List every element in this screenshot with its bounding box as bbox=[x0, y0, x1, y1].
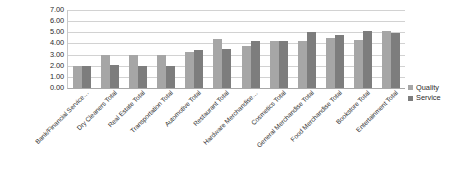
plot-area bbox=[67, 10, 405, 89]
bar-service[interactable] bbox=[307, 32, 316, 88]
bar-group bbox=[124, 10, 152, 88]
y-axis-tick: 3.00 bbox=[50, 51, 64, 58]
bar-quality[interactable] bbox=[326, 38, 335, 88]
x-axis-label: Bank/Financial Service… bbox=[34, 89, 90, 145]
x-axis-label: Hardware Merchandise… bbox=[201, 89, 258, 146]
y-axis-tick: 6.00 bbox=[50, 17, 64, 24]
legend-swatch-service-icon bbox=[408, 96, 413, 101]
bar-groups bbox=[68, 10, 405, 88]
y-axis-tick: 5.00 bbox=[50, 29, 64, 36]
bar-quality[interactable] bbox=[213, 39, 222, 88]
y-axis-tick-labels: 7.006.005.004.003.002.001.000.00 bbox=[30, 10, 64, 88]
bar-quality[interactable] bbox=[382, 31, 391, 88]
bar-group bbox=[208, 10, 236, 88]
bar-quality[interactable] bbox=[73, 66, 82, 88]
x-axis-category-labels: Bank/Financial Service…Dry Cleaners Tota… bbox=[67, 89, 404, 189]
bar-group bbox=[349, 10, 377, 88]
bar-service[interactable] bbox=[251, 41, 260, 88]
bar-group bbox=[293, 10, 321, 88]
y-axis-tick: 7.00 bbox=[50, 6, 64, 13]
bar-service[interactable] bbox=[166, 66, 175, 88]
bar-group bbox=[152, 10, 180, 88]
plot-wrapper: 7.006.005.004.003.002.001.000.00 Bank/Fi… bbox=[0, 0, 472, 100]
y-axis-tick: 0.00 bbox=[50, 84, 64, 91]
bar-chart: 7.006.005.004.003.002.001.000.00 Bank/Fi… bbox=[0, 0, 472, 190]
bar-service[interactable] bbox=[335, 35, 344, 88]
y-axis-tick: 1.00 bbox=[50, 73, 64, 80]
bar-group bbox=[265, 10, 293, 88]
bar-quality[interactable] bbox=[354, 40, 363, 88]
bar-quality[interactable] bbox=[129, 55, 138, 88]
bar-service[interactable] bbox=[363, 31, 372, 88]
bar-service[interactable] bbox=[110, 65, 119, 88]
legend-label: Quality bbox=[416, 84, 439, 91]
bar-quality[interactable] bbox=[157, 55, 166, 88]
bar-group bbox=[68, 10, 96, 88]
bar-quality[interactable] bbox=[242, 46, 251, 88]
bar-group bbox=[321, 10, 349, 88]
bar-group bbox=[236, 10, 264, 88]
bar-group bbox=[377, 10, 405, 88]
bar-group bbox=[96, 10, 124, 88]
bar-service[interactable] bbox=[391, 33, 400, 88]
x-axis-label: Food Merchandise Total bbox=[289, 89, 343, 143]
bar-quality[interactable] bbox=[185, 52, 194, 88]
bar-group bbox=[180, 10, 208, 88]
legend-item-service[interactable]: Service bbox=[408, 94, 441, 101]
bar-quality[interactable] bbox=[101, 55, 110, 88]
legend-label: Service bbox=[416, 94, 441, 101]
x-axis-label: General Merchandise Total bbox=[255, 89, 315, 149]
legend-swatch-quality-icon bbox=[408, 85, 413, 90]
y-axis-tick: 4.00 bbox=[50, 40, 64, 47]
bar-quality[interactable] bbox=[270, 41, 279, 88]
bar-service[interactable] bbox=[82, 66, 91, 88]
chart-legend: QualityService bbox=[408, 84, 441, 105]
bar-service[interactable] bbox=[138, 66, 147, 88]
y-axis-tick: 2.00 bbox=[50, 62, 64, 69]
bar-service[interactable] bbox=[279, 41, 288, 88]
bar-service[interactable] bbox=[194, 50, 203, 88]
bar-quality[interactable] bbox=[298, 41, 307, 88]
legend-item-quality[interactable]: Quality bbox=[408, 84, 441, 91]
bar-service[interactable] bbox=[222, 49, 231, 88]
